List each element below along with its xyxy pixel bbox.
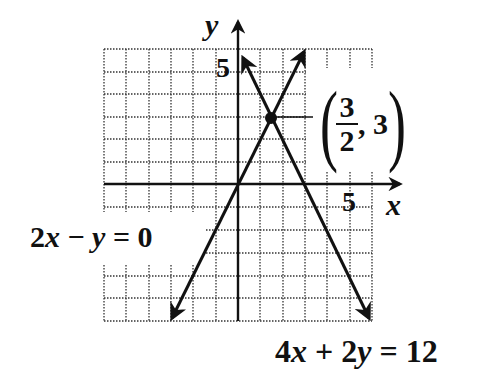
equation-label-1: 2x − y = 0 [30, 220, 153, 254]
y-axis-label: y [205, 8, 218, 42]
x-axis-label: x [386, 188, 401, 222]
y-tick-5: 5 [216, 52, 230, 84]
graph [0, 0, 487, 387]
equation-label-2: 4x + 2y = 12 [275, 333, 438, 370]
x-tick-5: 5 [342, 186, 356, 218]
intersection-point [265, 112, 277, 124]
point-label: ( 3 2 , 3 ) [314, 74, 412, 174]
